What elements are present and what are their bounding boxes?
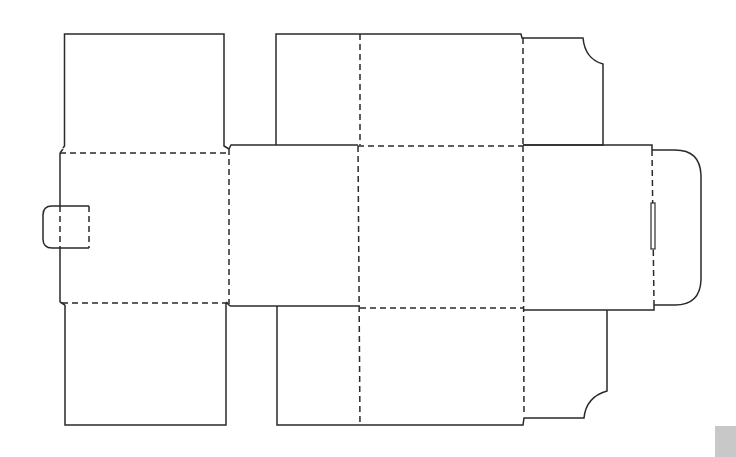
right-panel-bottom-edge <box>523 305 654 310</box>
top-lid-panel <box>276 34 603 145</box>
tuck-flap <box>652 150 701 305</box>
glue-tab <box>43 206 89 248</box>
corner-mark <box>715 426 736 457</box>
right-panel-top-edge <box>523 145 652 150</box>
center-panel-right-fold <box>523 146 524 415</box>
top-left-flap <box>63 34 229 149</box>
left-side-panel-corner-notches <box>60 149 230 306</box>
bottom-panel <box>277 306 607 425</box>
tuck-slot <box>651 203 655 249</box>
center-panel-left-fold <box>358 146 360 425</box>
box-dieline-diagram <box>0 0 736 457</box>
front-panel-top-edge <box>229 145 358 149</box>
bottom-left-flap <box>65 303 226 425</box>
